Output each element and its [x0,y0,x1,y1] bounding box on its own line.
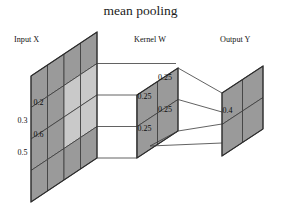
output-plane-label: Output Y [220,35,250,44]
input-value-3: 0.5 [18,148,28,157]
input-plane-label: Input X [14,35,39,44]
kernel-value-2: 0.25 [158,105,172,114]
kernel-plane-label: Kernel W [134,35,166,44]
input-value-2: 0.6 [34,130,44,139]
input-value-1: 0.3 [18,116,28,125]
kernel-value-0: 0.25 [158,73,172,82]
mean-pooling-diagram: mean pooling Input X Kernel W Output Y 0… [0,0,281,205]
diagram-title: mean pooling [104,3,178,18]
kernel-value-3: 0.25 [138,124,152,133]
output-value-0: 0.4 [223,106,233,115]
input-value-0: 0.2 [34,98,44,107]
kernel-value-1: 0.25 [138,92,152,101]
